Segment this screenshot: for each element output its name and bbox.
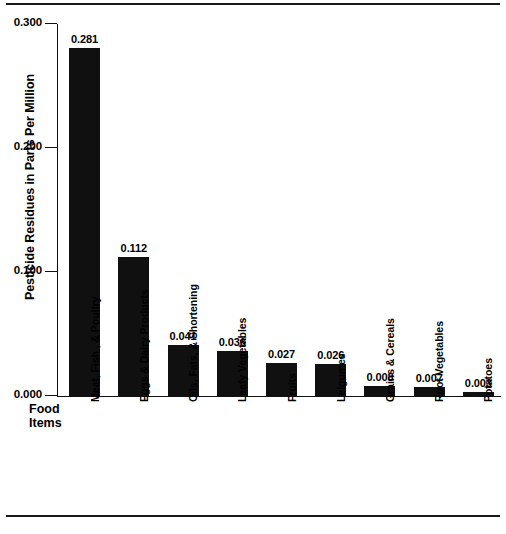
y-axis-tick-mark — [45, 271, 57, 272]
x-axis-category-label: Leafy Vegetables — [236, 318, 248, 402]
bar-value-label: 0.281 — [53, 33, 116, 45]
x-axis-category-label: Fruits — [286, 373, 298, 402]
x-axis-category-label: Eggs & Dairy Products — [138, 289, 150, 402]
y-axis-tick-mark — [45, 23, 57, 24]
bar-value-label: 0.003 — [447, 377, 506, 389]
x-axis-category-label: Potatoes — [482, 358, 494, 402]
x-axis-category-label: Root Vegetables — [433, 321, 445, 402]
bar-group: 0.027 — [266, 24, 297, 396]
y-axis-tick-label: 0.300 — [0, 16, 42, 28]
x-axis-category-label: Grains & Cereals — [384, 318, 396, 402]
bottom-divider-rule — [6, 515, 500, 517]
top-divider-rule — [6, 3, 500, 5]
x-axis-title: Food Items — [29, 402, 62, 430]
bar-group: 0.026 — [315, 24, 346, 396]
x-axis-category-label: Oils, Fats, & Shortening — [187, 284, 199, 402]
y-axis-tick-label: 0.200 — [0, 140, 42, 152]
bar-value-label: 0.026 — [299, 349, 362, 361]
x-axis-category-label: Meat, Fish , & Poultry — [89, 296, 101, 402]
y-axis-title: Pesticide Residues in Parts Per Million — [23, 17, 37, 357]
bar-value-label: 0.112 — [102, 242, 165, 254]
bar-group: 0.003 — [463, 24, 494, 396]
x-axis-category-label: Lelgumes — [335, 353, 347, 402]
y-axis-tick-mark — [45, 395, 57, 396]
y-axis-tick-label: 0.000 — [0, 388, 42, 400]
bar-chart-figure: Pesticide Residues in Parts Per Million … — [0, 0, 506, 534]
y-axis-tick-mark — [45, 147, 57, 148]
y-axis-tick-label: 0.100 — [0, 264, 42, 276]
